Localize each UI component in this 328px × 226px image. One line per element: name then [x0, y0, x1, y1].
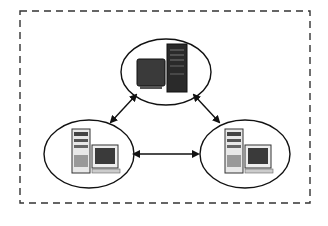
arrow-top-to-bottom-right	[194, 95, 219, 122]
node-bottom-left-computer	[44, 120, 134, 188]
tower-server-icon	[167, 44, 187, 92]
monitor-icon	[245, 145, 273, 173]
tower-computer-icon	[72, 129, 90, 173]
tower-computer-icon	[225, 129, 243, 173]
monitor-icon	[92, 145, 120, 173]
node-top-server	[121, 39, 211, 105]
monitor-icon	[137, 59, 165, 89]
node-bottom-right-computer	[200, 120, 290, 188]
arrow-top-to-bottom-left	[111, 95, 136, 122]
network-diagram	[0, 0, 328, 226]
